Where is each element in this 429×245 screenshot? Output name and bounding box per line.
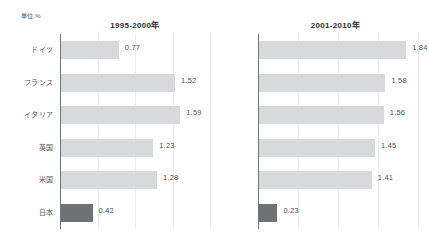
bar: [259, 41, 406, 59]
category-label: フランス: [7, 77, 53, 87]
bar-value-label: 1.58: [391, 76, 406, 85]
plot-area: 1.841.581.561.451.410.23: [258, 34, 418, 229]
bar-value-label: 0.42: [99, 206, 114, 215]
bar: [61, 41, 119, 59]
category-label: 米国: [7, 174, 53, 184]
bar-row: 1.58: [258, 67, 418, 100]
bar-row: 0.42日本: [60, 197, 210, 230]
bar-row: 1.45: [258, 132, 418, 165]
bar-row: 1.23英国: [60, 132, 210, 165]
bar-value-label: 1.56: [390, 108, 405, 117]
bar-value-label: 0.23: [283, 206, 298, 215]
bar-row: 1.84: [258, 34, 418, 67]
bar: [259, 106, 384, 124]
bar-value-label: 0.77: [125, 43, 140, 52]
bar-value-label: 1.52: [181, 76, 196, 85]
panel-title: 2001-2010年: [258, 19, 413, 30]
bar-row: 0.23: [258, 197, 418, 230]
category-label: 英国: [7, 142, 53, 152]
bar-row: 1.52フランス: [60, 67, 210, 100]
bar-value-label: 1.59: [186, 108, 201, 117]
bar: [61, 74, 175, 92]
bar-value-label: 1.23: [159, 141, 174, 150]
bar: [61, 171, 157, 189]
bar: [259, 139, 375, 157]
bar: [259, 74, 385, 92]
bar-row: 1.28米国: [60, 164, 210, 197]
category-label: ドイツ: [7, 44, 53, 54]
bar: [259, 204, 277, 222]
bar-value-label: 1.84: [412, 43, 427, 52]
bar: [259, 171, 372, 189]
bar-value-label: 1.28: [163, 173, 178, 182]
chart-figure: 単位:% 1995-2000年 0.77ドイツ1.52フランス1.59イタリア1…: [0, 0, 429, 245]
bar: [61, 204, 93, 222]
bar: [61, 139, 153, 157]
bar-rows: 0.77ドイツ1.52フランス1.59イタリア1.23英国1.28米国0.42日…: [60, 34, 210, 229]
gridline: [418, 34, 419, 229]
chart-panel-1995-2000: 1995-2000年 0.77ドイツ1.52フランス1.59イタリア1.23英国…: [0, 0, 215, 245]
category-label: イタリア: [7, 109, 53, 119]
bar-value-label: 1.41: [378, 173, 393, 182]
panel-title: 1995-2000年: [60, 19, 210, 30]
bar-value-label: 1.45: [381, 141, 396, 150]
bar: [61, 106, 180, 124]
category-label: 日本: [7, 207, 53, 217]
bar-row: 1.56: [258, 99, 418, 132]
bar-rows: 1.841.581.561.451.410.23: [258, 34, 418, 229]
bar-row: 1.41: [258, 164, 418, 197]
plot-area: 0.77ドイツ1.52フランス1.59イタリア1.23英国1.28米国0.42日…: [60, 34, 210, 229]
bar-row: 0.77ドイツ: [60, 34, 210, 67]
gridline: [210, 34, 211, 229]
bar-row: 1.59イタリア: [60, 99, 210, 132]
chart-panel-2001-2010: 2001-2010年 1.841.581.561.451.410.23: [215, 0, 429, 245]
